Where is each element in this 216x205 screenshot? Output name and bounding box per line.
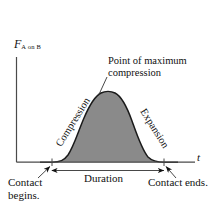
contact-begins-label: Contact begins.	[8, 176, 70, 203]
y-axis-label: FA on B	[14, 38, 41, 51]
force-pulse-area	[16, 92, 195, 163]
y-axis-subscript: A on B	[21, 43, 41, 50]
duration-label: Duration	[84, 173, 123, 185]
peak-callout-label: Point of maximum compression	[108, 55, 212, 80]
force-time-collision-figure: FA on B t Point of maximum compression C…	[0, 0, 216, 205]
contact-ends-label: Contact ends.	[148, 176, 210, 189]
x-axis-label: t	[197, 152, 200, 164]
